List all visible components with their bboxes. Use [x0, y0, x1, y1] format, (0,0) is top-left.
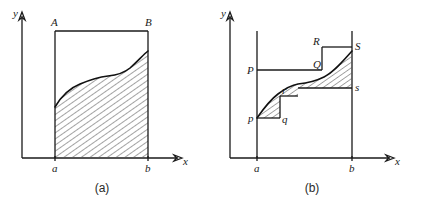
panel-b-label-b: b	[349, 162, 355, 174]
panel-a-y-axis	[19, 12, 25, 158]
panel-b-label-q: q	[282, 113, 288, 125]
panel-a-caption: (a)	[95, 181, 110, 195]
panel-a-svg: y x A B	[0, 0, 212, 207]
panel-b-label-Q: Q	[313, 58, 321, 70]
panel-a-label-B: B	[145, 16, 152, 28]
panel-b-x-axis-label: x	[394, 155, 400, 167]
figure-root: y x A B	[0, 0, 424, 207]
panel-b-x-axis	[230, 155, 394, 161]
panel-b-label-s: s	[355, 81, 359, 93]
panel-b-svg: y x	[212, 0, 424, 207]
panel-b-label-a: a	[254, 162, 260, 174]
panel-b-caption: (b)	[305, 181, 320, 195]
panel-b-label-r: r	[282, 84, 287, 96]
panel-b-label-p-lower: p	[247, 112, 254, 124]
panel-a-label-A: A	[50, 16, 58, 28]
panel-b-label-P-upper: P	[246, 64, 254, 76]
panel-a: y x A B	[0, 0, 212, 207]
panel-b-label-S: S	[355, 40, 361, 52]
panel-b-y-axis	[227, 12, 233, 158]
panel-b: y x	[212, 0, 424, 207]
panel-a-y-axis-label: y	[12, 7, 18, 19]
panel-a-x-axis-label: x	[182, 155, 188, 167]
panel-a-label-b: b	[145, 162, 151, 174]
panel-b-label-R: R	[312, 35, 320, 47]
panel-b-y-axis-label: y	[220, 7, 226, 19]
panel-a-label-a: a	[52, 162, 58, 174]
